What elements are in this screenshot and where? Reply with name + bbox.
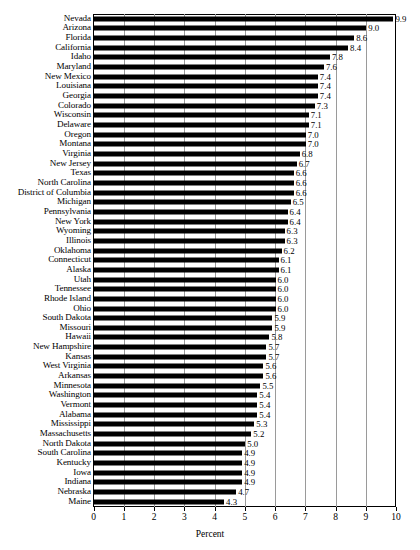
bar [94,45,348,50]
bar-value-label: 4.9 [242,468,255,477]
x-tick-label: 4 [212,512,217,522]
bar-row: Missouri5.9 [0,323,420,333]
x-tick-mark [184,507,185,511]
bar-value-label: 9.0 [366,24,379,33]
bar [94,393,257,398]
bar-row: Kentucky4.9 [0,458,420,468]
x-tick-label: 3 [182,512,187,522]
bar-value-label: 4.7 [236,488,249,497]
bar-row: Iowa4.9 [0,468,420,478]
bar-value-label: 6.0 [276,294,289,303]
bar [94,94,318,99]
x-tick-mark [366,507,367,511]
bar-value-label: 6.4 [288,208,301,217]
bar-row: Connecticut6.1 [0,255,420,265]
bar [94,432,251,437]
bar [94,412,257,417]
bar [94,74,318,79]
bar [94,171,294,176]
bar-value-label: 5.6 [263,372,276,381]
bar-value-label: 4.9 [242,449,255,458]
x-tick-label: 2 [152,512,157,522]
bar-value-label: 7.4 [318,92,331,101]
x-tick-label: 6 [273,512,278,522]
bar [94,364,263,369]
bar [94,354,266,359]
bar-value-label: 8.6 [354,34,367,43]
bar [94,200,291,205]
bar [94,238,285,243]
bar [94,258,279,263]
bar-value-label: 7.3 [315,101,328,110]
bar-value-label: 7.4 [318,72,331,81]
bar-value-label: 5.4 [257,401,270,410]
bar-value-label: 4.3 [224,497,237,506]
bar [94,152,300,157]
bar [94,219,288,224]
bar-value-label: 5.5 [260,381,273,390]
x-tick-mark [154,507,155,511]
bar [94,383,260,388]
bar-row: Wyoming6.3 [0,226,420,236]
bar [94,296,276,301]
bar-value-label: 5.9 [272,323,285,332]
bar-value-label: 4.9 [242,478,255,487]
bar [94,209,288,214]
bar-rows: Nevada9.9Arizona9.0Florida8.6California8… [0,14,420,506]
x-axis: 012345678910 [0,507,420,527]
bar-value-label: 6.4 [288,217,301,226]
bar-value-label: 7.1 [309,111,322,120]
bar-row: Alaska6.1 [0,265,420,275]
bar [94,142,306,147]
x-tick-mark [94,507,95,511]
bar [94,190,294,195]
x-tick-label: 0 [91,512,96,522]
bar [94,55,330,60]
bar-value-label: 7.0 [306,130,319,139]
bar-value-label: 7.1 [309,121,322,130]
bar [94,325,272,330]
x-tick-label: 1 [121,512,126,522]
bar-value-label: 6.6 [294,188,307,197]
bar-value-label: 8.4 [348,43,361,52]
bar [94,335,269,340]
bar-value-label: 5.4 [257,391,270,400]
x-tick-mark [215,507,216,511]
x-tick-label: 9 [363,512,368,522]
bar [94,84,318,89]
bar-value-label: 6.0 [276,285,289,294]
bar-value-label: 5.4 [257,410,270,419]
bar [94,36,354,41]
bar-value-label: 6.1 [279,256,292,265]
x-tick-mark [245,507,246,511]
x-tick-label: 10 [391,512,401,522]
bar-value-label: 6.1 [279,265,292,274]
bar [94,470,242,475]
bar [94,489,236,494]
bar [94,16,393,21]
bar [94,316,272,321]
bar [94,65,324,70]
bar-value-label: 7.8 [330,53,343,62]
bar-value-label: 7.6 [324,63,337,72]
bar [94,103,315,108]
x-tick-mark [336,507,337,511]
bar-value-label: 7.4 [318,82,331,91]
bar [94,306,276,311]
x-tick-label: 5 [242,512,247,522]
x-tick-mark [275,507,276,511]
bar [94,451,242,456]
bar-row: Maine4.3 [0,497,420,507]
bar [94,277,276,282]
bar [94,461,242,466]
bar [94,287,276,292]
bar-value-label: 6.6 [294,169,307,178]
bar-row: Nebraska4.7 [0,487,420,497]
x-tick-mark [124,507,125,511]
bar [94,499,224,504]
bar-value-label: 6.8 [300,150,313,159]
bar-row: Delaware7.1 [0,120,420,130]
bar [94,248,282,253]
bar-value-label: 6.3 [285,227,298,236]
x-tick-label: 8 [333,512,338,522]
